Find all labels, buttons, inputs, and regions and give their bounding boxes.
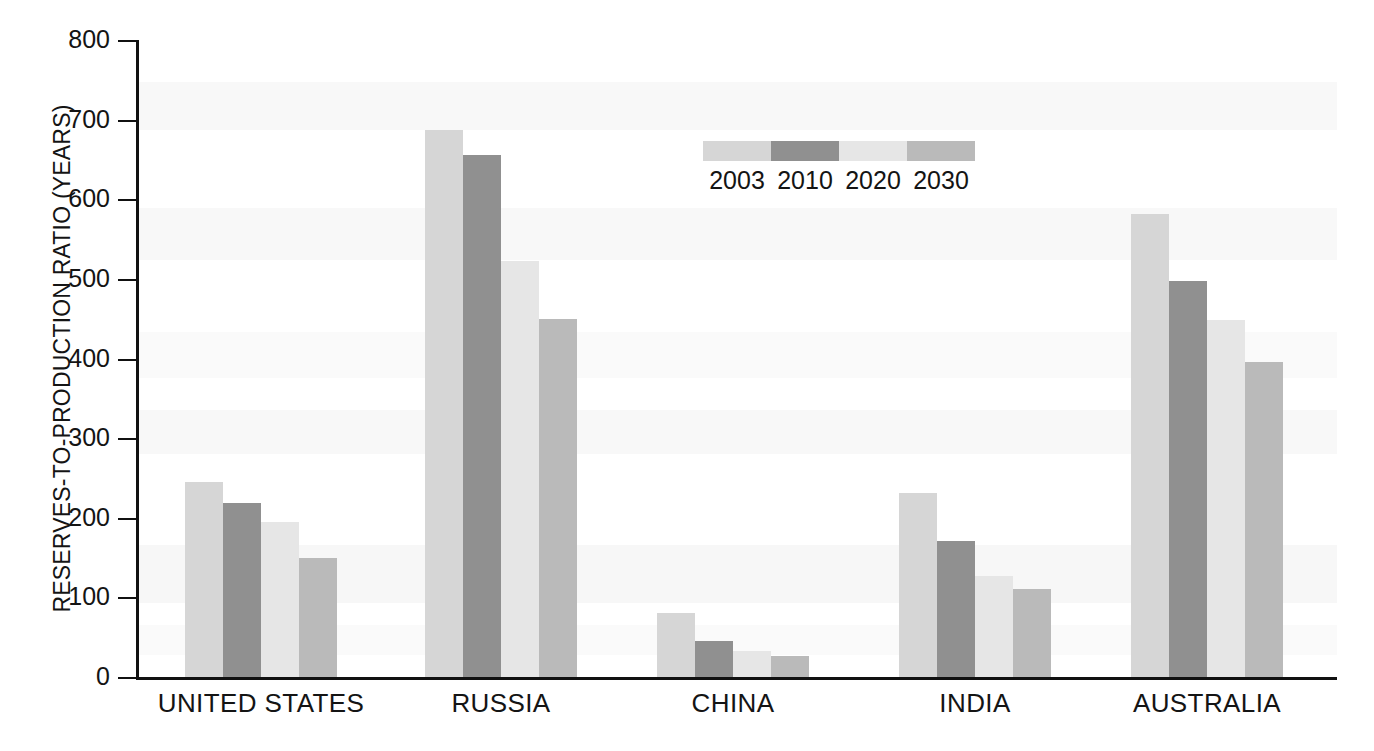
bar: [975, 576, 1013, 677]
y-axis-tick-label: 600: [48, 184, 110, 213]
bar-group: [657, 40, 809, 677]
bar: [539, 319, 577, 677]
bar: [771, 656, 809, 677]
bar: [261, 522, 299, 677]
bar: [1245, 362, 1283, 677]
legend-label-2030: 2030: [907, 166, 975, 195]
bar: [223, 503, 261, 677]
y-axis-tick-label: 200: [48, 503, 110, 532]
legend-swatches: [703, 141, 975, 161]
y-axis-tick-label: 500: [48, 264, 110, 293]
bar-group: [899, 40, 1051, 677]
y-axis-tick-label: 800: [48, 25, 110, 54]
y-axis-tick: [118, 359, 137, 361]
y-axis-tick-label: 300: [48, 423, 110, 452]
x-axis-line: [136, 677, 1337, 680]
y-axis-tick: [118, 597, 137, 599]
legend-swatch-2030: [907, 141, 975, 161]
bar-group: [185, 40, 337, 677]
bar: [733, 651, 771, 677]
legend-swatch-2003: [703, 141, 771, 161]
legend-label-2010: 2010: [771, 166, 839, 195]
legend-swatch-2020: [839, 141, 907, 161]
legend-label-2020: 2020: [839, 166, 907, 195]
y-axis-tick: [118, 438, 137, 440]
legend-swatch-2010: [771, 141, 839, 161]
y-axis-tick: [118, 40, 137, 42]
bar-chart: RESERVES-TO-PRODUCTION RATIO (YEARS) 010…: [0, 0, 1374, 751]
bar: [1169, 281, 1207, 677]
bar: [501, 261, 539, 677]
y-axis-tick-label: 100: [48, 582, 110, 611]
bar: [299, 558, 337, 677]
bar-group: [1131, 40, 1283, 677]
bar-group: [425, 40, 577, 677]
y-axis-tick: [118, 120, 137, 122]
bar: [899, 493, 937, 677]
bar: [425, 130, 463, 677]
chart-legend: 2003201020202030: [703, 141, 975, 195]
legend-labels: 2003201020202030: [703, 166, 975, 195]
y-axis-tick: [118, 677, 137, 679]
bar: [695, 641, 733, 677]
y-axis-tick-label: 400: [48, 344, 110, 373]
bar: [657, 613, 695, 677]
bar: [1131, 214, 1169, 677]
plot-area: [139, 40, 1337, 677]
bar: [463, 155, 501, 677]
y-axis-tick: [118, 279, 137, 281]
bar: [185, 482, 223, 677]
y-axis-tick: [118, 518, 137, 520]
x-axis-label-australia: AUSTRALIA: [1047, 688, 1367, 719]
bar: [1207, 320, 1245, 677]
y-axis-tick-label: 0: [48, 662, 110, 691]
bar: [937, 541, 975, 677]
y-axis-tick-label: 700: [48, 105, 110, 134]
y-axis-tick: [118, 199, 137, 201]
bar: [1013, 589, 1051, 677]
legend-label-2003: 2003: [703, 166, 771, 195]
